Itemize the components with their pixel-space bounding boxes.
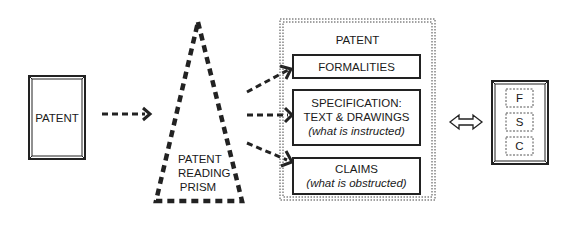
summary-letter-c: C [506, 139, 533, 153]
source-patent-label: PATENT [29, 111, 85, 125]
specification-subtitle: (what is instructed) [293, 124, 420, 138]
formalities-title: FORMALITIES [293, 60, 420, 74]
claims-subtitle: (what is obstructed) [293, 176, 420, 190]
prism-label-line1: PATENT [178, 152, 218, 166]
prism-output-arrows [247, 66, 292, 166]
specification-title-line1: SPECIFICATION: [293, 96, 420, 110]
specification-title-line2: TEXT & DRAWINGS [293, 110, 420, 124]
summary-letter-s: S [506, 115, 533, 129]
prism-label-line2: READING [178, 166, 218, 180]
equivalence-arrow-icon [450, 115, 482, 129]
patent-container-title: PATENT [283, 33, 432, 47]
input-arrow [102, 108, 150, 120]
claims-title: CLAIMS [293, 162, 420, 176]
prism-label-line3: PRISM [178, 180, 218, 194]
summary-letter-f: F [506, 91, 533, 105]
